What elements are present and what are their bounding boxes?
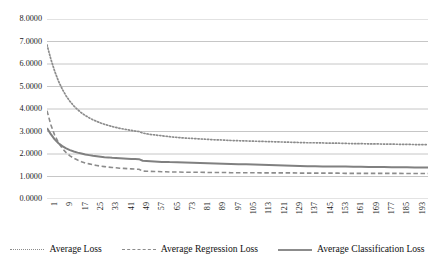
- y-axis-tick-label: 5.0000: [19, 82, 42, 90]
- series-lines: [47, 19, 428, 199]
- legend-line-swatch-icon: [10, 245, 44, 254]
- x-axis-tick-label: 81: [204, 202, 212, 210]
- x-axis-tick-label: 17: [82, 202, 90, 210]
- x-axis-tick-label: 137: [311, 202, 319, 214]
- y-axis-tick-label: 2.0000: [19, 150, 42, 158]
- x-axis-tick-label: 129: [296, 202, 304, 214]
- y-axis-tick-label: 6.0000: [19, 60, 42, 68]
- legend-label: Average Classification Loss: [317, 244, 424, 254]
- x-axis-tick-label: 57: [158, 202, 166, 210]
- x-axis-tick-label: 73: [189, 202, 197, 210]
- x-axis-tick-label: 185: [403, 202, 411, 214]
- legend-line-swatch-icon: [278, 245, 312, 254]
- x-axis-tick-label: 153: [342, 202, 350, 214]
- x-axis-tick-label: 65: [174, 202, 182, 210]
- x-axis-tick-label: 121: [281, 202, 289, 214]
- x-axis-tick-label: 145: [327, 202, 335, 214]
- x-axis-tick-label: 1: [51, 202, 59, 206]
- x-axis-tick-label: 193: [419, 202, 427, 214]
- x-axis: 1917253341495765738189971051131211291371…: [47, 200, 428, 236]
- legend-line-swatch-icon: [122, 245, 156, 254]
- x-axis-tick-label: 41: [128, 202, 136, 210]
- plot-area: [47, 19, 428, 199]
- legend-label: Average Loss: [49, 244, 101, 254]
- x-axis-tick-label: 105: [250, 202, 258, 214]
- x-axis-tick-label: 161: [357, 202, 365, 214]
- chart-legend: Average LossAverage Regression LossAvera…: [0, 240, 435, 258]
- x-axis-tick-label: 49: [143, 202, 151, 210]
- y-axis-tick-label: 1.0000: [19, 172, 42, 180]
- loss-curve-chart: 0.00001.00002.00003.00004.00005.00006.00…: [0, 0, 435, 265]
- legend-item[interactable]: Average Classification Loss: [278, 244, 424, 254]
- x-axis-tick-label: 177: [388, 202, 396, 214]
- series-line: [47, 128, 428, 167]
- x-axis-tick-label: 169: [373, 202, 381, 214]
- series-line: [47, 45, 428, 145]
- x-axis-tick-label: 97: [235, 202, 243, 210]
- legend-label: Average Regression Loss: [161, 244, 258, 254]
- x-axis-tick-label: 33: [112, 202, 120, 210]
- y-axis-tick-label: 7.0000: [19, 37, 42, 45]
- x-axis-tick-label: 89: [219, 202, 227, 210]
- y-axis-tick-label: 0.0000: [19, 195, 42, 203]
- y-axis-tick-label: 4.0000: [19, 105, 42, 113]
- y-axis-tick-label: 3.0000: [19, 127, 42, 135]
- x-axis-tick-label: 9: [66, 202, 74, 206]
- legend-item[interactable]: Average Regression Loss: [122, 244, 258, 254]
- y-axis-tick-label: 8.0000: [19, 15, 42, 23]
- legend-item[interactable]: Average Loss: [10, 244, 101, 254]
- x-axis-tick-label: 113: [265, 202, 273, 214]
- x-axis-tick-label: 25: [97, 202, 105, 210]
- y-axis: 0.00001.00002.00003.00004.00005.00006.00…: [0, 0, 45, 219]
